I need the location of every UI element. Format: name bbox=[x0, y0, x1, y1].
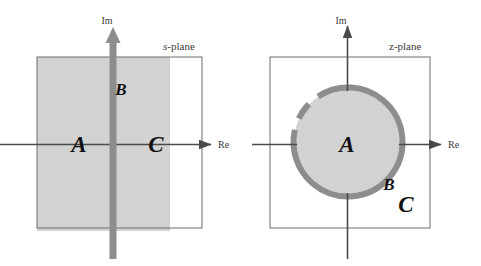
roc-mapping-figure: Im Re s-plane A B C bbox=[0, 0, 481, 266]
z-plane-region-label-b: B bbox=[382, 175, 394, 194]
z-plane-region-label-a: A bbox=[337, 132, 354, 157]
s-plane-title-suffix: -plane bbox=[167, 40, 195, 52]
s-plane-re-axis-label: Re bbox=[218, 139, 230, 150]
panel-s-plane: Im Re s-plane A B C bbox=[0, 15, 230, 259]
z-plane-im-axis-label: Im bbox=[335, 15, 346, 26]
figure-canvas: Im Re s-plane A B C bbox=[0, 0, 481, 266]
s-plane-region-label-a: A bbox=[69, 132, 86, 157]
z-plane-title-suffix: -plane bbox=[394, 40, 422, 52]
s-plane-title: s-plane bbox=[163, 40, 195, 52]
s-plane-im-axis-label: Im bbox=[101, 15, 112, 26]
z-plane-region-label-c: C bbox=[398, 192, 414, 217]
panel-z-plane: Im Re z-plane A B C bbox=[252, 15, 460, 259]
z-plane-title: z-plane bbox=[389, 40, 421, 52]
s-plane-region-label-b: B bbox=[114, 80, 126, 99]
s-plane-region-label-c: C bbox=[148, 132, 164, 157]
z-plane-re-axis-label: Re bbox=[448, 139, 460, 150]
